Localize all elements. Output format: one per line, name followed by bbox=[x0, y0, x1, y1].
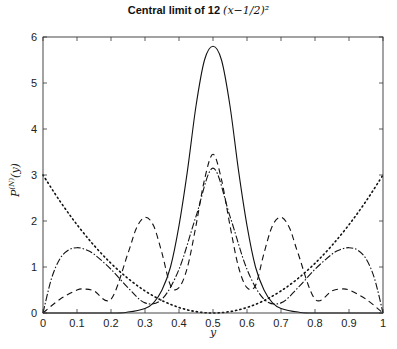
series-line-n-1 bbox=[43, 175, 383, 313]
y-tick-label: 2 bbox=[31, 215, 37, 227]
x-tick-label: 0.7 bbox=[273, 317, 288, 329]
series-line-n-2 bbox=[43, 168, 383, 313]
x-tick-label: 0.4 bbox=[171, 317, 186, 329]
series-layer bbox=[43, 46, 383, 313]
x-axis-label: y bbox=[209, 326, 217, 339]
x-tick-label: 0 bbox=[40, 317, 46, 329]
x-tick-label: 0.9 bbox=[341, 317, 356, 329]
svg-text:P(N)(y): P(N)(y) bbox=[8, 163, 22, 198]
y-tick-label: 4 bbox=[31, 123, 37, 135]
y-tick-label: 6 bbox=[31, 31, 37, 43]
x-tick-label: 1 bbox=[380, 317, 386, 329]
x-tick-label: 0.2 bbox=[103, 317, 118, 329]
y-tick-label: 5 bbox=[31, 77, 37, 89]
y-tick-label: 0 bbox=[31, 307, 37, 319]
x-tick-label: 0.6 bbox=[239, 317, 254, 329]
axes-frame bbox=[43, 37, 383, 313]
x-tick-label: 0.3 bbox=[137, 317, 152, 329]
y-tick-label: 1 bbox=[31, 261, 37, 273]
series-line-n-3 bbox=[43, 154, 383, 313]
y-tick-label: 3 bbox=[31, 169, 37, 181]
series-line-n-large bbox=[43, 46, 383, 313]
chart-plot: 00.10.20.30.40.50.60.70.80.910123456 y P… bbox=[0, 0, 397, 349]
x-tick-label: 0.8 bbox=[307, 317, 322, 329]
ticks-layer: 00.10.20.30.40.50.60.70.80.910123456 bbox=[31, 31, 386, 329]
x-tick-label: 0.1 bbox=[69, 317, 84, 329]
y-axis-label: P(N)(y) bbox=[8, 163, 22, 198]
